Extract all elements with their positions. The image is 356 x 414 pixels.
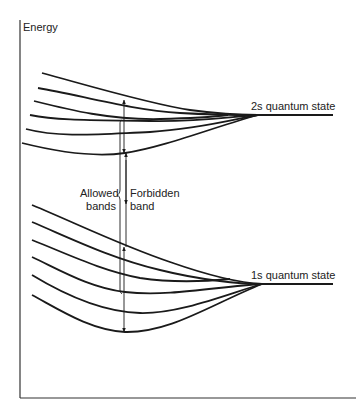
axes	[20, 20, 356, 398]
upper-curve-3	[34, 101, 228, 119]
lower-curve-3	[32, 240, 230, 281]
lower-curve-4	[32, 257, 262, 293]
upper-state-label: 2s quantum state	[251, 100, 335, 113]
lower-curve-6	[32, 284, 262, 332]
forbidden-band-label: Forbidden band	[130, 187, 180, 213]
lower-state-label: 1s quantum state	[251, 269, 335, 282]
allowed-line-2: bands	[80, 200, 116, 213]
upper-band-curves	[22, 73, 333, 155]
lower-curve-1	[32, 205, 262, 284]
forbidden-line-2: band	[130, 200, 180, 213]
band-markers	[117, 100, 126, 332]
energy-axis-label: Energy	[23, 21, 58, 34]
upper-curve-1	[42, 73, 258, 115]
allowed-line-1: Allowed	[80, 187, 116, 200]
forbidden-line-1: Forbidden	[130, 187, 180, 200]
allowed-brace	[117, 120, 122, 294]
allowed-bands-label: Allowed bands	[80, 187, 116, 213]
